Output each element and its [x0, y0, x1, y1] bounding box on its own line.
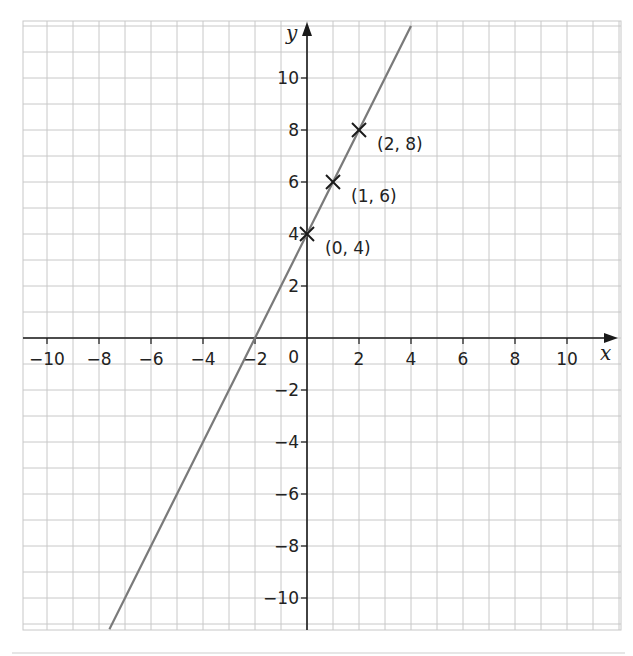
y-tick-label: 6 — [288, 172, 299, 192]
grid-border — [23, 21, 621, 630]
y-tick-label: 8 — [288, 120, 299, 140]
axes: xy — [23, 21, 618, 630]
y-tick-label: −10 — [263, 588, 299, 608]
x-tick-label: 4 — [406, 349, 417, 369]
x-tick-label: 2 — [354, 349, 365, 369]
y-tick-label: −8 — [274, 536, 299, 556]
y-tick-label: −4 — [274, 432, 299, 452]
x-axis-label: x — [600, 341, 611, 365]
data-line — [109, 26, 411, 629]
origin-label: 0 — [288, 347, 299, 367]
point-label: (0, 4) — [325, 238, 371, 258]
coordinate-plane: xy −10−8−6−4−2246810−10−8−6−4−22468100 (… — [0, 0, 633, 656]
y-tick-label: 4 — [288, 224, 299, 244]
point-label: (1, 6) — [351, 186, 397, 206]
x-tick-label: 8 — [510, 349, 521, 369]
x-tick-label: 6 — [458, 349, 469, 369]
bottom-divider — [12, 652, 625, 654]
y-tick-label: 10 — [277, 68, 299, 88]
y-axis-arrow-icon — [302, 22, 312, 36]
plotted-points: (0, 4)(1, 6)(2, 8) — [300, 123, 423, 258]
x-tick-label: −2 — [242, 349, 267, 369]
point-label: (2, 8) — [377, 134, 423, 154]
y-tick-label: −2 — [274, 380, 299, 400]
line-y-equals-2x-plus-4 — [109, 26, 411, 629]
y-tick-label: −6 — [274, 484, 299, 504]
x-tick-label: −8 — [86, 349, 111, 369]
x-tick-label: −6 — [138, 349, 163, 369]
y-axis-label: y — [285, 21, 298, 45]
x-tick-label: 10 — [556, 349, 578, 369]
y-tick-label: 2 — [288, 276, 299, 296]
x-tick-label: −4 — [190, 349, 215, 369]
grid — [23, 21, 621, 630]
x-tick-label: −10 — [29, 349, 65, 369]
